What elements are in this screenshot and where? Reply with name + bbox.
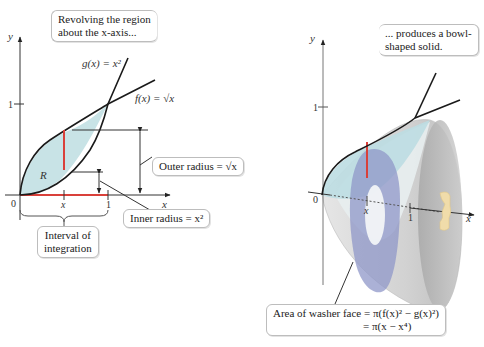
x-label-right: x bbox=[465, 212, 471, 224]
tick-label-1-right: 1 bbox=[408, 212, 413, 223]
right-graph bbox=[308, 40, 474, 313]
callout-bowl: ... produces a bowl- shaped solid. bbox=[379, 24, 479, 56]
callout-revolving-line2: about the x-axis... bbox=[58, 26, 151, 39]
interval-line2: integration bbox=[44, 242, 92, 255]
tick-label-x-right: x bbox=[363, 205, 369, 216]
tick-label-1-left: 1 bbox=[106, 199, 111, 210]
washer-leader bbox=[335, 262, 353, 304]
callout-washer-area: Area of washer face = π(f(x)² − g(x)²) =… bbox=[266, 304, 446, 336]
f-label: f(x) = √x bbox=[135, 92, 174, 105]
washer-area-line1: Area of washer face = π(f(x)² − g(x)²) bbox=[273, 307, 439, 320]
callout-bowl-line1: ... produces a bowl- bbox=[385, 27, 472, 40]
callout-interval: Interval of integration bbox=[37, 226, 99, 258]
callout-bowl-line2: shaped solid. bbox=[385, 40, 472, 53]
tick-label-0-right: 0 bbox=[313, 194, 318, 205]
outer-leader bbox=[140, 157, 152, 165]
y-label-right: y bbox=[309, 32, 315, 44]
y-label-left: y bbox=[7, 30, 13, 42]
outer-radius-text: Outer radius = √x bbox=[159, 160, 237, 172]
tick-label-y1-right: 1 bbox=[313, 102, 318, 113]
callout-outer-radius: Outer radius = √x bbox=[152, 157, 244, 176]
callout-revolving-line1: Revolving the region bbox=[58, 13, 151, 26]
tick-label-0-left: 0 bbox=[11, 198, 16, 209]
tick-label-y1-left: 1 bbox=[8, 99, 13, 110]
tick-label-x-left: x bbox=[60, 199, 66, 210]
region-r-label: R bbox=[39, 169, 47, 181]
washer-area-line2: = π(x − x⁴) bbox=[273, 320, 439, 333]
callout-inner-radius: Inner radius = x² bbox=[123, 209, 210, 228]
callout-revolving: Revolving the region about the x-axis... bbox=[51, 10, 157, 42]
interval-brace bbox=[20, 210, 108, 222]
g-label: g(x) = x² bbox=[82, 57, 122, 70]
interval-line1: Interval of bbox=[44, 229, 92, 242]
inner-radius-text: Inner radius = x² bbox=[130, 212, 203, 224]
bowl-rim bbox=[418, 120, 462, 310]
